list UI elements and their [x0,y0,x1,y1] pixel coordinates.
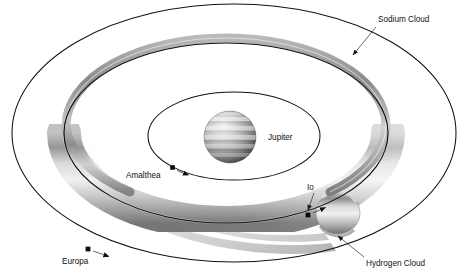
amalthea-marker [170,165,175,170]
diagram-root: Sodium Cloud Hydrogen Cloud Jupiter Amal… [0,0,460,274]
amalthea-label: Amalthea [126,171,161,180]
io-label: Io [307,183,314,192]
europa-label: Europa [62,257,89,266]
sodium-cloud-label: Sodium Cloud [378,15,430,24]
io-marker [306,213,311,218]
europa-marker [86,247,91,252]
jupiter-torus-diagram: Sodium Cloud Hydrogen Cloud Jupiter Amal… [0,0,460,274]
jupiter-label: Jupiter [268,133,293,142]
hydrogen-cloud-label: Hydrogen Cloud [366,259,426,268]
